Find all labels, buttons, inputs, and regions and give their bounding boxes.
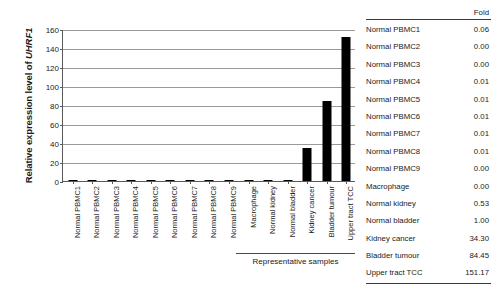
bar-group: Normal kidney (258, 30, 278, 181)
bar-group: Bladder tumour (317, 30, 337, 181)
x-tick-mark (190, 181, 191, 184)
x-tick-mark (307, 181, 308, 184)
fold-row-label: Normal kidney (366, 195, 416, 212)
table-row: Normal PBMC20.00 (366, 38, 491, 55)
y-tick-label: 120 (46, 64, 59, 73)
y-tick-label: 40 (50, 140, 59, 149)
y-tick-label: 60 (50, 121, 59, 130)
fold-row-label: Upper tract TCC (366, 264, 423, 281)
x-tick-label: Normal PBMC3 (112, 186, 121, 238)
table-row: Normal bladder1.00 (366, 212, 491, 229)
x-tick-label: Normal kidney (268, 186, 277, 234)
table-row: Normal kidney0.53 (366, 195, 491, 212)
fold-row-value: 0.01 (474, 125, 491, 142)
plot-area: 020406080100120140160 Normal PBMC1Normal… (62, 30, 355, 182)
y-tick-label: 140 (46, 45, 59, 54)
table-row: Macrophage0.00 (366, 178, 491, 195)
x-axis-title: Representative samples (236, 257, 355, 266)
x-tick-mark (288, 181, 289, 184)
fold-row-value: 151.17 (465, 264, 491, 281)
fold-row-label: Normal PBMC4 (366, 73, 420, 90)
bar (322, 101, 331, 181)
y-axis-title-gene: UHRF1 (23, 28, 34, 59)
x-tick-mark (327, 181, 328, 184)
fold-row-value: 84.45 (469, 247, 491, 264)
fold-table-header: Fold (366, 8, 491, 19)
x-tick-mark (73, 181, 74, 184)
y-tick-label: 100 (46, 83, 59, 92)
fold-row-label: Normal PBMC3 (366, 56, 420, 73)
bar (342, 37, 351, 181)
bars-layer: Normal PBMC1Normal PBMC2Normal PBMC3Norm… (63, 30, 355, 181)
x-tick-label: Macrophage (249, 186, 258, 228)
x-tick-mark (131, 181, 132, 184)
fold-row-label: Normal PBMC2 (366, 38, 420, 55)
x-tick-label: Normal PBMC2 (92, 186, 101, 238)
y-tick-label: 0 (55, 178, 59, 187)
bar-group: Normal PBMC6 (161, 30, 181, 181)
table-row: Normal PBMC70.01 (366, 125, 491, 142)
table-row: Bladder tumour84.45 (366, 247, 491, 264)
fold-row-value: 0.01 (474, 91, 491, 108)
bar-chart-figure: Relative expression level of UHRF1 02040… (0, 0, 360, 289)
y-axis-title-text: Relative expression level of (23, 59, 34, 183)
bar-group: Normal PBMC8 (200, 30, 220, 181)
y-tick-mark (60, 182, 63, 183)
y-tick-label: 80 (50, 102, 59, 111)
table-row: Normal PBMC80.01 (366, 143, 491, 160)
y-tick-label: 20 (50, 159, 59, 168)
x-tick-label: Normal PBMC1 (73, 186, 82, 238)
fold-row-label: Bladder tumour (366, 247, 419, 264)
fold-row-label: Normal PBMC9 (366, 160, 420, 177)
table-row: Normal PBMC30.00 (366, 56, 491, 73)
fold-row-value: 0.00 (474, 178, 491, 195)
bar-group: Normal PBMC3 (102, 30, 122, 181)
bar-group: Normal PBMC7 (180, 30, 200, 181)
fold-row-label: Normal PBMC5 (366, 91, 420, 108)
representative-samples-bracket (236, 253, 355, 254)
fold-row-label: Normal bladder (366, 212, 419, 229)
table-row: Normal PBMC60.01 (366, 108, 491, 125)
fold-row-value: 0.01 (474, 108, 491, 125)
fold-table-bottom-rule (366, 283, 491, 284)
fold-row-value: 0.53 (474, 195, 491, 212)
fold-row-value: 0.01 (474, 143, 491, 160)
fold-row-label: Normal PBMC6 (366, 108, 420, 125)
fold-row-value: 34.30 (469, 230, 491, 247)
fold-row-value: 1.00 (474, 212, 491, 229)
x-tick-mark (112, 181, 113, 184)
table-row: Normal PBMC10.06 (366, 21, 491, 38)
bar-group: Normal bladder (278, 30, 298, 181)
x-tick-mark (229, 181, 230, 184)
x-tick-label: Normal PBMC4 (131, 186, 140, 238)
x-tick-mark (170, 181, 171, 184)
x-tick-mark (209, 181, 210, 184)
bar-group: Normal PBMC1 (63, 30, 83, 181)
x-tick-label: Normal PBMC7 (190, 186, 199, 238)
fold-row-label: Macrophage (366, 178, 409, 195)
bar (303, 148, 312, 181)
table-row: Normal PBMC90.00 (366, 160, 491, 177)
y-tick-label: 160 (46, 26, 59, 35)
fold-row-value: 0.06 (474, 21, 491, 38)
x-tick-label: Kidney cancer (307, 186, 316, 234)
fold-row-value: 0.00 (474, 38, 491, 55)
x-tick-mark (249, 181, 250, 184)
fold-row-label: Normal PBMC8 (366, 143, 420, 160)
table-row: Normal PBMC50.01 (366, 91, 491, 108)
x-tick-label: Normal PBMC8 (209, 186, 218, 238)
table-row: Kidney cancer34.30 (366, 230, 491, 247)
x-tick-mark (92, 181, 93, 184)
bar-group: Normal PBMC4 (122, 30, 142, 181)
bar-group: Upper tract TCC (336, 30, 356, 181)
x-tick-label: Normal bladder (288, 186, 297, 237)
x-tick-mark (346, 181, 347, 184)
bar-group: Normal PBMC2 (83, 30, 103, 181)
table-row: Normal PBMC40.01 (366, 73, 491, 90)
bar-group: Normal PBMC5 (141, 30, 161, 181)
table-row: Upper tract TCC151.17 (366, 264, 491, 281)
x-tick-mark (151, 181, 152, 184)
x-tick-label: Normal PBMC9 (229, 186, 238, 238)
fold-table: Fold Normal PBMC10.06Normal PBMC20.00Nor… (366, 8, 491, 284)
x-tick-mark (268, 181, 269, 184)
